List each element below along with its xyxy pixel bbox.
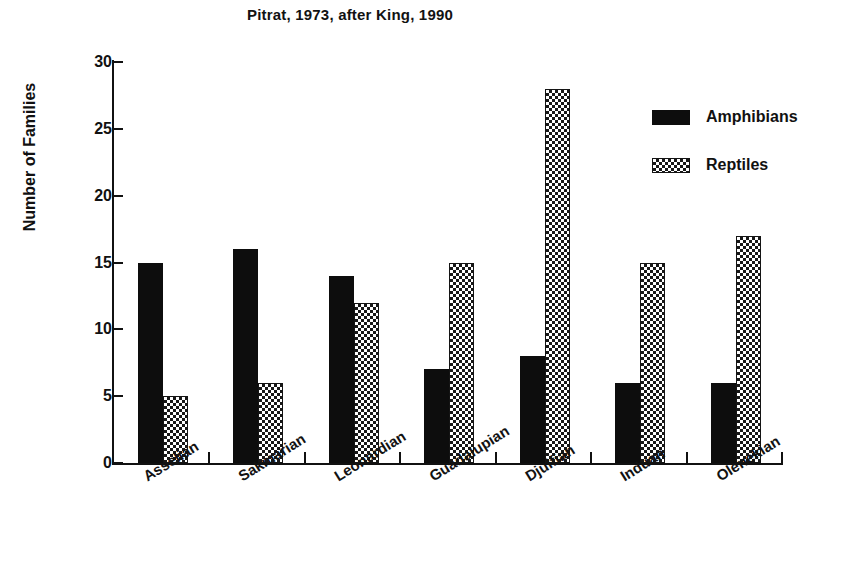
chart-title: Pitrat, 1973, after King, 1990 [0,6,700,23]
bar-leonardian-amphibians [329,276,354,463]
legend-label-amphibians: Amphibians [706,108,798,126]
bar-olenekian-amphibians [711,383,736,463]
bar-induan-amphibians [615,383,640,463]
legend-item-reptiles: Reptiles [652,152,848,178]
bar-induan-reptiles [640,263,665,464]
bar-guadalupian-amphibians [424,369,449,463]
checkered-swatch-icon [652,158,690,173]
chart-legend: Amphibians Reptiles [652,104,848,200]
solid-black-swatch-icon [652,110,690,125]
legend-label-reptiles: Reptiles [706,156,768,174]
bar-guadalupian-reptiles [449,263,474,464]
y-tick-label: 10 [74,321,112,337]
legend-item-amphibians: Amphibians [652,104,848,130]
bar-djulfian-amphibians [520,356,545,463]
y-tick-label: 5 [74,388,112,404]
y-tick-label: 30 [74,54,112,70]
y-tick-label: 0 [74,455,112,471]
chart-figure: Pitrat, 1973, after King, 1990 Number of… [0,0,853,587]
y-tick-label: 25 [74,121,112,137]
bar-sakmarian-amphibians [233,249,258,463]
bar-leonardian-reptiles [354,303,379,463]
bar-asselian-amphibians [138,263,163,464]
bar-olenekian-reptiles [736,236,761,463]
y-tick-label: 20 [74,188,112,204]
bar-djulfian-reptiles [545,89,570,463]
y-axis-label: Number of Families [21,47,39,267]
y-tick-label: 15 [74,255,112,271]
